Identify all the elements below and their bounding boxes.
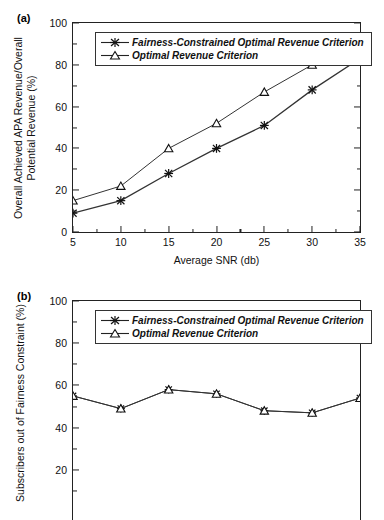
y-tick-label: 60 xyxy=(29,101,73,113)
y-minor-tick xyxy=(73,364,77,365)
x-tick-mark xyxy=(72,226,73,232)
y-minor-tick xyxy=(73,85,77,86)
panel-a: (a) Overall Achieved APA Revenue/Overall… xyxy=(0,0,384,278)
y-tick-mark-right xyxy=(354,106,360,107)
y-tick-label: 60 xyxy=(29,379,73,391)
x-tick-mark xyxy=(120,226,121,232)
x-minor-tick xyxy=(192,229,193,233)
y-tick-mark xyxy=(73,106,79,107)
panel-b-y-axis-title: Subscribers out of Fairness Constraint (… xyxy=(14,278,27,520)
legend-label-fairness-constrained: Fairness-Constrained Optimal Revenue Cri… xyxy=(130,315,364,326)
x-minor-tick xyxy=(240,229,241,233)
legend-entry-optimal-revenue: Optimal Revenue Criterion xyxy=(100,327,364,340)
series-fairness-constrained xyxy=(73,54,360,217)
y-minor-tick-right xyxy=(357,127,361,128)
legend-label-optimal-revenue: Optimal Revenue Criterion xyxy=(130,50,258,61)
star-marker-icon xyxy=(100,36,130,49)
legend-label-optimal-revenue: Optimal Revenue Criterion xyxy=(130,328,258,339)
y-tick-mark xyxy=(73,231,79,232)
y-minor-tick xyxy=(73,448,77,449)
y-tick-mark-right xyxy=(354,148,360,149)
y-tick-mark xyxy=(73,190,79,191)
x-tick-mark xyxy=(312,226,313,232)
y-tick-mark xyxy=(73,148,79,149)
legend-entry-fairness-constrained: Fairness-Constrained Optimal Revenue Cri… xyxy=(100,36,364,49)
x-minor-tick xyxy=(336,229,337,233)
y-minor-tick xyxy=(73,406,77,407)
x-tick-label: 15 xyxy=(163,236,175,248)
panel-a-x-axis-title: Average SNR (db) xyxy=(73,254,360,266)
y-minor-tick xyxy=(73,322,77,323)
panel-b-legend: Fairness-Constrained Optimal Revenue Cri… xyxy=(95,310,372,344)
x-tick-mark xyxy=(168,226,169,232)
y-tick-label: 100 xyxy=(29,295,73,307)
x-tick-label: 25 xyxy=(258,236,270,248)
y-tick-mark xyxy=(73,385,79,386)
legend-entry-fairness-constrained: Fairness-Constrained Optimal Revenue Cri… xyxy=(100,314,364,327)
y-tick-label: 100 xyxy=(29,17,73,29)
series-optimal-revenue xyxy=(73,386,360,417)
y-tick-label: 80 xyxy=(29,59,73,71)
y-tick-mark xyxy=(73,469,79,470)
triangle-marker-icon xyxy=(100,49,130,62)
y-minor-tick xyxy=(73,211,77,212)
series-optimal-revenue xyxy=(73,48,360,204)
triangle-marker-icon xyxy=(100,327,130,340)
y-tick-mark-right xyxy=(354,22,360,23)
y-tick-label: 40 xyxy=(29,142,73,154)
x-minor-tick xyxy=(96,229,97,233)
x-tick-label: 10 xyxy=(115,236,127,248)
panel-a-legend: Fairness-Constrained Optimal Revenue Cri… xyxy=(95,32,372,66)
y-minor-tick xyxy=(73,127,77,128)
y-tick-mark xyxy=(73,427,79,428)
x-tick-label: 5 xyxy=(70,236,76,248)
legend-entry-optimal-revenue: Optimal Revenue Criterion xyxy=(100,49,364,62)
x-tick-mark xyxy=(264,226,265,232)
y-tick-mark xyxy=(73,300,79,301)
x-tick-label: 20 xyxy=(211,236,223,248)
y-minor-tick xyxy=(73,169,77,170)
y-minor-tick-right xyxy=(357,169,361,170)
y-tick-mark-right xyxy=(354,190,360,191)
y-tick-mark xyxy=(73,64,79,65)
panel-b: (b) Subscribers out of Fairness Constrai… xyxy=(0,278,384,520)
x-tick-label: 35 xyxy=(354,236,366,248)
star-marker-icon xyxy=(100,314,130,327)
y-tick-mark xyxy=(73,22,79,23)
figure-page: (a) Overall Achieved APA Revenue/Overall… xyxy=(0,0,384,520)
panel-a-y-axis-title: Overall Achieved APA Revenue/OverallPote… xyxy=(12,18,37,238)
x-tick-mark xyxy=(359,226,360,232)
x-minor-tick xyxy=(144,229,145,233)
y-minor-tick xyxy=(73,490,77,491)
y-tick-label: 0 xyxy=(29,226,73,238)
y-tick-label: 40 xyxy=(29,422,73,434)
legend-label-fairness-constrained: Fairness-Constrained Optimal Revenue Cri… xyxy=(130,37,364,48)
y-minor-tick xyxy=(73,43,77,44)
x-tick-mark xyxy=(216,226,217,232)
y-minor-tick-right xyxy=(357,211,361,212)
y-tick-mark xyxy=(73,343,79,344)
y-tick-label: 20 xyxy=(29,464,73,476)
x-tick-label: 30 xyxy=(306,236,318,248)
y-tick-label: 80 xyxy=(29,337,73,349)
y-tick-label: 20 xyxy=(29,184,73,196)
x-minor-tick xyxy=(288,229,289,233)
y-minor-tick-right xyxy=(357,85,361,86)
